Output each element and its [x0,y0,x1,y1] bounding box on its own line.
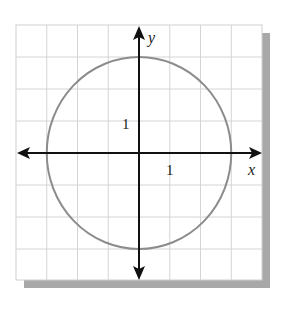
coordinate-plane: y x 1 1 [0,0,286,311]
y-axis-label: y [146,29,156,47]
y-tick-label: 1 [122,116,130,132]
x-tick-label: 1 [166,162,174,178]
x-axis-label: x [247,161,255,178]
